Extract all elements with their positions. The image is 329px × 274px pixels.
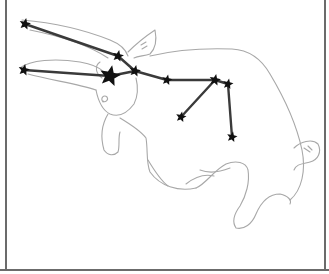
taurus-illustration (0, 0, 329, 274)
bull-outline (20, 20, 320, 228)
constellation-line (25, 24, 118, 56)
constellation-line (181, 80, 215, 117)
frame-left-border (5, 0, 7, 271)
star-icon (20, 18, 31, 29)
constellation-figure (0, 0, 329, 274)
constellation-line (228, 84, 232, 137)
constellation-line (135, 71, 167, 80)
star-icon (227, 132, 237, 142)
frame-right-border (324, 0, 326, 271)
frame-bottom-border (0, 269, 329, 271)
